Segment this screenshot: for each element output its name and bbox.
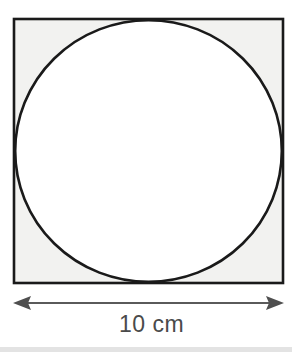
figure-canvas (0, 0, 303, 355)
geometry-figure: 10 cm (0, 0, 303, 355)
dimension-label: 10 cm (0, 311, 303, 338)
inscribed-circle-shape (15, 20, 282, 282)
bottom-rule (0, 347, 292, 352)
